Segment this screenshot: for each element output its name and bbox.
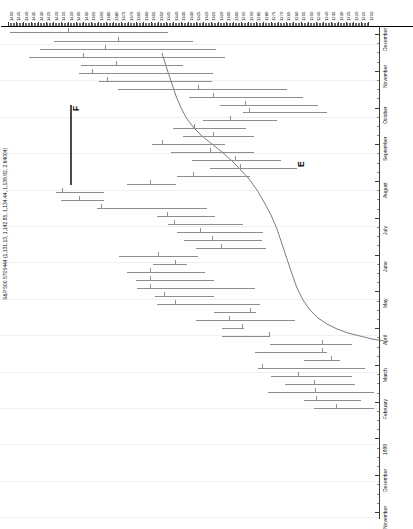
date-tick-label: December (383, 469, 388, 492)
date-axis: DecemberNovemberOctoberSeptemberAugustJu… (370, 26, 413, 519)
price-tick-label: 1265 (287, 12, 292, 21)
date-minor-tick (377, 319, 379, 320)
date-minor-tick (377, 236, 379, 237)
ohlc-bar (203, 120, 277, 121)
ohlc-bar (183, 136, 254, 137)
ohlc-bar (99, 81, 212, 82)
ohlc-bar-tick (249, 108, 250, 113)
date-tick (375, 365, 379, 366)
price-tick-label: 1255 (302, 12, 307, 21)
date-minor-tick (377, 153, 379, 154)
date-tick (375, 402, 379, 403)
price-tick-label: 1385 (107, 12, 112, 21)
ohlc-bar-tick (213, 132, 214, 137)
price-tick-label: 1360 (145, 12, 150, 21)
price-tick-label: 1420 (55, 12, 60, 21)
ohlc-bar (222, 328, 244, 329)
ohlc-bar-tick (150, 276, 151, 281)
date-tick (375, 438, 379, 439)
price-tick-label: 1335 (182, 12, 187, 21)
price-tick-label: 1390 (100, 12, 105, 21)
date-minor-tick (377, 126, 379, 127)
price-tick-label: 1340 (175, 12, 180, 21)
date-minor-tick (377, 411, 379, 412)
date-minor-tick (377, 503, 379, 504)
price-tick-label: 1330 (190, 12, 195, 21)
ohlc-bar (29, 57, 225, 58)
price-tick-label: 1225 (347, 12, 352, 21)
ohlc-bar-tick (92, 69, 93, 74)
date-tick-label: September (383, 137, 388, 161)
date-tick-label: March (383, 368, 388, 382)
price-tick-label: 1325 (197, 12, 202, 21)
price-tick-label: 1410 (70, 12, 75, 21)
date-tick (375, 144, 379, 145)
date-tick-label: December (383, 28, 388, 51)
ohlc-bar-tick (298, 372, 299, 377)
price-tick-label: 1365 (137, 12, 142, 21)
ohlc-bar-tick (193, 172, 194, 177)
ohlc-bar-tick (150, 284, 151, 289)
ohlc-bar-tick (175, 260, 176, 265)
date-minor-tick (377, 273, 379, 274)
date-minor-tick (377, 494, 379, 495)
ohlc-bar-tick (116, 61, 117, 66)
vertical-marker[interactable] (70, 105, 72, 185)
date-minor-tick (377, 62, 379, 63)
annotation-e: E (296, 161, 306, 167)
date-tick (375, 328, 379, 329)
date-tick (375, 291, 379, 292)
ohlc-bar-tick (150, 180, 151, 185)
ohlc-bar-tick (240, 164, 241, 169)
ohlc-bar-tick (213, 93, 214, 98)
price-tick-label: 1400 (85, 12, 90, 21)
date-minor-tick (377, 484, 379, 485)
ohlc-bar-tick (198, 85, 199, 90)
date-minor-tick (377, 282, 379, 283)
chart-title: S&P 500 5705444 (1,131.13, 1,142.85, 1,1… (3, 148, 8, 300)
ohlc-bar-tick (101, 204, 102, 209)
ohlc-bar (79, 73, 213, 74)
date-tick (375, 108, 379, 109)
ohlc-bar (304, 400, 361, 401)
date-minor-tick (377, 135, 379, 136)
ohlc-bar-tick (174, 220, 175, 225)
date-tick (375, 512, 379, 513)
ohlc-bar (157, 304, 260, 305)
price-tick-label: 1220 (355, 12, 360, 21)
date-minor-tick (377, 448, 379, 449)
ohlc-bar-tick (336, 404, 337, 409)
ohlc-bar (304, 360, 340, 361)
ohlc-bar-tick (221, 244, 222, 249)
date-tick-label: July (383, 226, 388, 235)
ohlc-bar (285, 384, 355, 385)
date-minor-tick (377, 420, 379, 421)
ohlc-bar-tick (175, 300, 176, 305)
date-tick (375, 475, 379, 476)
ohlc-bar (56, 192, 104, 193)
date-tick (375, 255, 379, 256)
price-tick-label: 1275 (272, 12, 277, 21)
ohlc-bar (153, 264, 187, 265)
ohlc-bar-tick (315, 388, 316, 393)
price-tick-label: 1310 (220, 12, 225, 21)
price-tick-label: 1305 (227, 12, 232, 21)
annotation-f: F (71, 106, 81, 111)
price-tick-label: 1355 (152, 12, 157, 21)
date-minor-tick (377, 466, 379, 467)
price-tick-label: 1295 (242, 12, 247, 21)
ohlc-bar (40, 49, 216, 50)
ohlc-bar (177, 232, 263, 233)
price-tick-label: 1320 (205, 12, 210, 21)
date-tick (375, 218, 379, 219)
date-minor-tick (377, 43, 379, 44)
price-tick-label: 1380 (115, 12, 120, 21)
date-minor-tick (377, 245, 379, 246)
date-minor-tick (377, 393, 379, 394)
ohlc-bar (61, 200, 104, 201)
price-tick-label: 1415 (62, 12, 67, 21)
ohlc-bar-tick (322, 348, 323, 353)
ohlc-bar-tick (242, 324, 243, 329)
price-tick-label: 1425 (47, 12, 52, 21)
ohlc-bar-tick (245, 101, 246, 106)
